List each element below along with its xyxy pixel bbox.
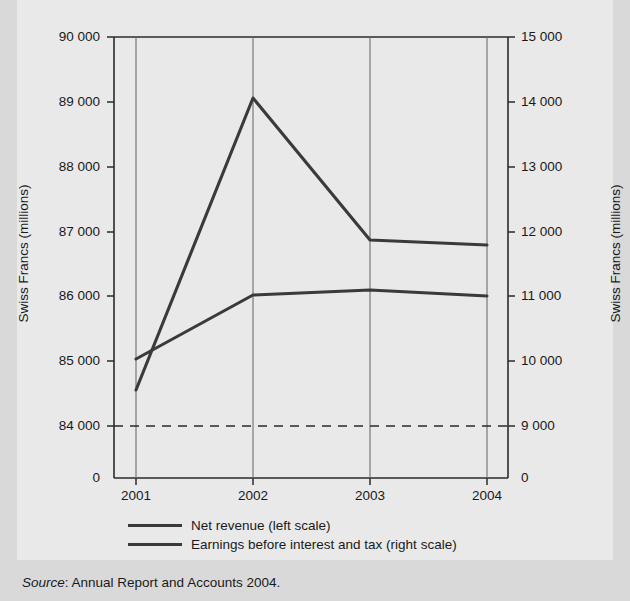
left-tick-label: 84 000 bbox=[20, 418, 100, 433]
legend-item-ebit: Earnings before interest and tax (right … bbox=[128, 535, 457, 554]
right-tick-label: 14 000 bbox=[521, 94, 601, 109]
left-tick-label: 85 000 bbox=[20, 353, 100, 368]
x-tick-label-2001: 2001 bbox=[106, 488, 166, 503]
right-tick-label: 9 000 bbox=[521, 418, 601, 433]
x-tick-label-2004: 2004 bbox=[457, 488, 517, 503]
source-text: : Annual Report and Accounts 2004. bbox=[65, 575, 280, 590]
left-tick-label: 89 000 bbox=[20, 94, 100, 109]
left-tick-label: 90 000 bbox=[20, 29, 100, 44]
x-axis-ticks bbox=[136, 478, 487, 485]
right-tick-label: 12 000 bbox=[521, 224, 601, 239]
left-axis-ticks bbox=[107, 37, 114, 426]
left-tick-label: 87 000 bbox=[20, 224, 100, 239]
series-line-ebit bbox=[136, 98, 487, 390]
left-tick-label: 88 000 bbox=[20, 159, 100, 174]
legend-item-net-revenue: Net revenue (left scale) bbox=[128, 516, 457, 535]
legend-label-net-revenue: Net revenue (left scale) bbox=[191, 518, 331, 533]
x-tick-label-2003: 2003 bbox=[340, 488, 400, 503]
source-label: Source bbox=[22, 575, 65, 590]
left-axis-title: Swiss Francs (millions) bbox=[16, 169, 31, 339]
legend: Net revenue (left scale) Earnings before… bbox=[128, 516, 457, 554]
legend-label-ebit: Earnings before interest and tax (right … bbox=[191, 537, 457, 552]
left-tick-label: 86 000 bbox=[20, 288, 100, 303]
series-line-net-revenue bbox=[136, 290, 487, 359]
right-axis-ticks bbox=[508, 37, 515, 426]
left-tick-label-zero: 0 bbox=[20, 470, 100, 485]
legend-swatch-ebit bbox=[128, 543, 182, 546]
right-tick-label: 15 000 bbox=[521, 29, 601, 44]
right-axis-title: Swiss Francs (millions) bbox=[608, 169, 623, 339]
x-tick-label-2002: 2002 bbox=[223, 488, 283, 503]
right-tick-label: 13 000 bbox=[521, 159, 601, 174]
source-note: Source: Annual Report and Accounts 2004. bbox=[22, 575, 280, 590]
right-tick-label: 11 000 bbox=[521, 288, 601, 303]
plot-frame bbox=[114, 37, 508, 478]
right-tick-label: 10 000 bbox=[521, 353, 601, 368]
legend-swatch-net-revenue bbox=[128, 524, 182, 527]
right-tick-label-zero: 0 bbox=[521, 470, 601, 485]
